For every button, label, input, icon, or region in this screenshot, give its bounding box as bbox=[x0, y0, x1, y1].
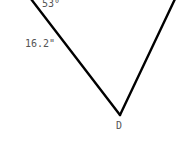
geometry-diagram: · · 53° 16.2" D bbox=[0, 0, 194, 143]
angle-label: 53° bbox=[42, 0, 60, 9]
side-left-edge bbox=[31, 0, 120, 115]
side-right-edge bbox=[120, 0, 175, 115]
cropped-label-fragment-right: · bbox=[182, 0, 188, 5]
side-length-label: 16.2" bbox=[25, 38, 55, 49]
vertex-d-label: D bbox=[116, 120, 122, 131]
cropped-label-fragment-left: · bbox=[18, 0, 24, 4]
